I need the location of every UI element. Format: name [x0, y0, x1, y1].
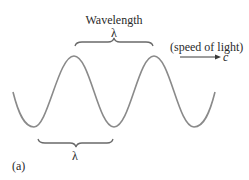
bottom-brace — [38, 139, 113, 147]
speed-of-light-label: (speed of light) — [170, 41, 243, 53]
arrowhead-icon — [215, 55, 221, 60]
top-lambda-symbol: λ — [111, 27, 117, 39]
wavelength-label: Wavelength — [85, 14, 142, 26]
speed-symbol-c: c — [223, 51, 228, 63]
wave-diagram — [0, 0, 249, 180]
light-wave — [13, 56, 215, 127]
bottom-lambda-symbol: λ — [72, 150, 78, 162]
panel-label: (a) — [12, 160, 25, 172]
